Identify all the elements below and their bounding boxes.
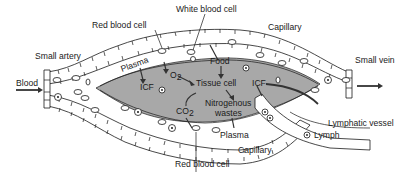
label-small-artery: Small artery <box>35 51 82 61</box>
label-icf-left: ICF <box>140 82 154 92</box>
label-white-blood-cell-top: White blood cell <box>176 4 237 14</box>
label-blood: Blood <box>16 78 38 88</box>
label-nitrogenous-wastes-1: Nitrogenous <box>205 98 251 108</box>
capillary-exchange-diagram: White blood cell Red blood cell Capillar… <box>0 0 418 181</box>
label-lymphatic-vessel: Lymphatic vessel <box>328 118 394 128</box>
label-red-blood-cell-top: Red blood cell <box>92 20 147 30</box>
label-small-vein: Small vein <box>355 55 395 65</box>
label-icf-right: ICF <box>252 78 266 88</box>
label-tissue-cell: Tissue cell <box>196 78 236 88</box>
label-lymph: Lymph <box>314 130 340 140</box>
label-food: Food <box>210 56 230 66</box>
artery-entrance <box>44 70 50 108</box>
label-nitrogenous-wastes-2: wastes <box>214 108 242 118</box>
label-red-blood-cell-bottom: Red blood cell <box>175 159 230 169</box>
label-plasma-bottom: Plasma <box>220 130 249 140</box>
vein-exit <box>346 70 352 98</box>
label-capillary-top: Capillary <box>268 22 302 32</box>
label-capillary-bottom: Capillary <box>238 145 272 155</box>
